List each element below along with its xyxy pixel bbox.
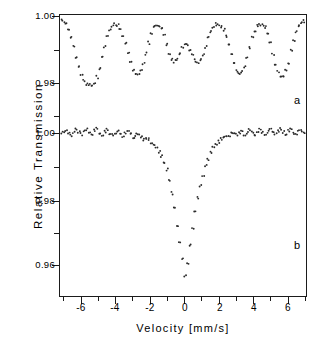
xtick-label--2: -2 [137,303,163,313]
xtick-minor-1 [201,297,202,301]
xtick-minor-5 [270,297,271,301]
xtick-minor--5 [98,297,99,301]
ytick-b-minor-2 [54,233,59,234]
panel-label-a: a [294,94,301,106]
xtick-label--4: -4 [102,303,128,313]
ytick-a-minor-1 [54,50,59,51]
figure-root: 1.00 0.98 1.00 0.98 0.96 -6 -4 -2 0 2 4 … [0,0,323,343]
xtick-label--6: -6 [68,303,94,313]
xtick-label-0: 0 [172,303,198,313]
xtick-label-6: 6 [275,303,301,313]
plot-frame [59,14,307,297]
xtick-minor--1 [167,297,168,301]
ytick-label-a-1: 1.00 [35,11,55,21]
xtick-minor--7 [63,297,64,301]
panel-label-b: b [294,239,301,251]
ytick-a-minor-2 [54,116,59,117]
xtick-label-4: 4 [241,303,267,313]
xtick-label-2: 2 [207,303,233,313]
ytick-label-b-3: 0.96 [35,260,55,270]
xtick-minor-7 [305,297,306,301]
ytick-b-minor-1 [54,167,59,168]
xtick-minor--3 [132,297,133,301]
x-axis-title: Velocity [mm/s] [59,322,307,334]
y-axis-title: Relative Transmission [32,56,44,256]
xtick-minor-3 [236,297,237,301]
